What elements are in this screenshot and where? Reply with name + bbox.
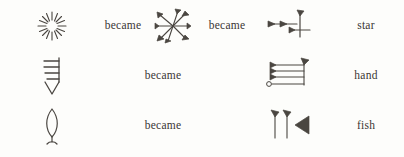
- fish-cuneiform: [252, 102, 328, 149]
- table-row: became hand: [0, 52, 404, 99]
- meaning-text: star: [357, 20, 375, 32]
- meaning-text: fish: [357, 120, 375, 132]
- hand-cuneiform: [252, 52, 328, 99]
- became-text: became: [145, 120, 182, 132]
- meaning-text: hand: [354, 70, 377, 82]
- became-label: became: [196, 2, 258, 49]
- became-text: became: [209, 20, 246, 32]
- cuneiform-evolution-figure: became: [0, 0, 404, 157]
- star-pictograph: [14, 2, 90, 49]
- hand-pictograph: [14, 52, 90, 99]
- fish-pictograph: [14, 102, 90, 149]
- star-late-cuneiform: [252, 2, 328, 49]
- table-row: became: [0, 2, 404, 49]
- meaning-label: hand: [330, 52, 402, 99]
- became-label: became: [108, 52, 218, 99]
- became-label: became: [108, 102, 218, 149]
- meaning-label: fish: [330, 102, 402, 149]
- table-row: became fish: [0, 102, 404, 149]
- meaning-label: star: [330, 2, 402, 49]
- became-text: became: [105, 20, 142, 32]
- became-text: became: [145, 70, 182, 82]
